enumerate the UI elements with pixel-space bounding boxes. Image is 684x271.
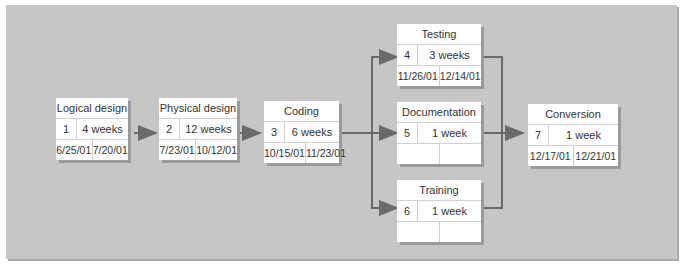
task-id: 4 — [397, 45, 418, 65]
task-id: 5 — [397, 123, 418, 143]
edge-4-7 — [482, 57, 502, 133]
task-duration: 3 weeks — [418, 45, 481, 65]
task-duration: 4 weeks — [77, 119, 128, 139]
task-duration: 1 week — [549, 125, 618, 145]
task-name: Testing — [397, 24, 481, 45]
task-node-coding: Coding 36 weeks 10/15/0111/23/01 — [264, 101, 339, 163]
task-name: Conversion — [528, 104, 618, 125]
task-duration: 1 week — [418, 123, 481, 143]
task-id: 6 — [397, 201, 418, 221]
edge-3-6 — [372, 133, 397, 208]
task-name: Logical design — [56, 98, 128, 119]
task-id: 2 — [159, 119, 180, 139]
task-node-physical-design: Physical design 212 weeks 7/23/0110/12/0… — [159, 98, 237, 160]
task-node-conversion: Conversion 71 week 12/17/0112/21/01 — [528, 104, 618, 166]
task-node-training: Training 61 week — [397, 180, 481, 242]
task-name: Training — [397, 180, 481, 201]
task-node-testing: Testing 43 weeks 11/26/0112/14/01 — [397, 24, 481, 86]
task-start: 10/15/01 — [264, 143, 306, 163]
task-duration: 12 weeks — [180, 119, 237, 139]
task-start: 11/26/01 — [397, 66, 440, 86]
task-duration: 1 week — [418, 201, 481, 221]
task-end — [440, 144, 482, 164]
task-id: 7 — [528, 125, 549, 145]
task-name: Coding — [264, 101, 339, 122]
edge-6-7 — [482, 133, 502, 208]
task-end: 12/14/01 — [440, 66, 482, 86]
edge-3-4 — [340, 57, 397, 133]
task-name: Physical design — [159, 98, 237, 119]
task-node-logical-design: Logical design 14 weeks 6/25/017/20/01 — [56, 98, 128, 160]
task-id: 1 — [56, 119, 77, 139]
task-start — [397, 222, 440, 242]
task-node-documentation: Documentation 51 week — [397, 102, 481, 164]
task-end — [440, 222, 482, 242]
task-start: 6/25/01 — [56, 140, 93, 160]
task-end: 12/21/01 — [574, 146, 619, 166]
task-start — [397, 144, 440, 164]
task-name: Documentation — [397, 102, 481, 123]
task-end: 11/23/01 — [306, 143, 346, 163]
task-start: 12/17/01 — [528, 146, 574, 166]
task-id: 3 — [264, 122, 285, 142]
task-end: 7/20/01 — [93, 140, 129, 160]
task-end: 10/12/01 — [196, 140, 237, 160]
task-start: 7/23/01 — [159, 140, 196, 160]
task-duration: 6 weeks — [285, 122, 339, 142]
